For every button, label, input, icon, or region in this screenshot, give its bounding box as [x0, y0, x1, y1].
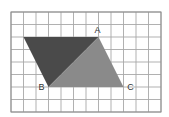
vertex-label-c: C	[127, 82, 134, 92]
shapes	[24, 37, 124, 87]
vertex-label-a: A	[94, 25, 100, 35]
grid-diagram: A B C	[0, 0, 169, 117]
vertex-label-b: B	[38, 82, 44, 92]
